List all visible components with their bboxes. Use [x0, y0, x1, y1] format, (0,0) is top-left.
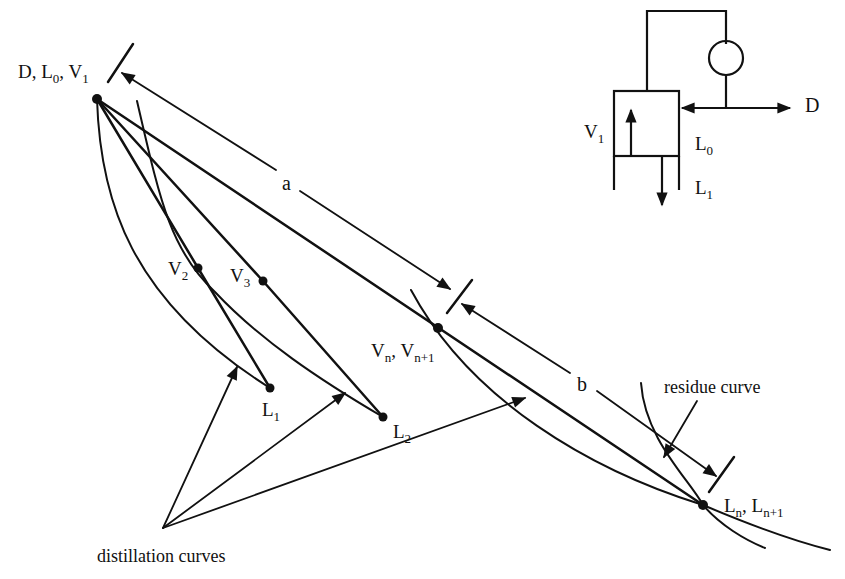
point-ln [698, 500, 708, 510]
operating-line-v1-v2 [97, 99, 198, 268]
inset-label-v1: V1 [584, 121, 604, 146]
residue-curve-pointer [664, 401, 697, 457]
distillation-pointer-1 [163, 367, 237, 528]
operating-line-v2-l1 [198, 268, 270, 388]
condenser-icon [709, 41, 743, 75]
point-l2 [379, 413, 388, 422]
label-d-l0-v1: D, L0, V1 [18, 61, 89, 86]
operating-line-v1-ln [97, 99, 703, 505]
label-b: b [577, 373, 587, 395]
point-v2 [194, 264, 203, 273]
operating-line-v1-v3 [97, 99, 263, 281]
dimension-a-lower [300, 191, 450, 289]
point-l1 [266, 384, 275, 393]
diagram-canvas: D, L0, V1 V2 V3 L1 L2 Vn, Vn+1 Ln, Ln+1 … [0, 0, 845, 579]
point-d-l0-v1 [92, 94, 102, 104]
inset-label-d: D [805, 94, 819, 116]
point-vn [433, 323, 443, 333]
label-vn-vn1: Vn, Vn+1 [371, 340, 434, 365]
dimension-a-upper [122, 73, 276, 170]
label-l1: L1 [262, 399, 280, 424]
inset-label-l0: L0 [695, 133, 713, 158]
label-v3: V3 [230, 265, 250, 290]
top-stage-box [614, 91, 679, 156]
label-distillation-curves: distillation curves [97, 546, 225, 566]
label-residue-curve: residue curve [664, 377, 760, 397]
dimension-tick-top [108, 44, 133, 82]
label-a: a [282, 172, 291, 194]
operating-line-v3-l2 [263, 281, 383, 417]
inset-label-l1: L1 [695, 177, 713, 202]
vapor-overhead-line [647, 11, 726, 91]
dimension-b-lower [597, 391, 716, 476]
column-top-schematic [614, 11, 790, 205]
point-v3 [259, 277, 268, 286]
distillation-pointer-3 [163, 398, 525, 528]
label-v2: V2 [168, 258, 188, 283]
distillation-pointer-2 [163, 393, 345, 528]
label-ln-ln1: Ln, Ln+1 [724, 495, 784, 520]
dimension-b-upper [462, 304, 570, 373]
